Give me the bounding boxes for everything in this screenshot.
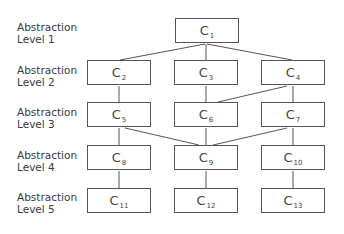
level-label-line1: Abstraction: [17, 191, 77, 203]
level-3-label: Abstraction Level 3: [17, 106, 77, 130]
node-c10: C10: [261, 145, 325, 170]
edge-c4-c6: [218, 86, 287, 102]
node-label: C: [112, 150, 121, 165]
level-label-line2: Level 3: [17, 118, 77, 130]
level-5-label: Abstraction Level 5: [17, 191, 77, 215]
edge-c1-c2: [120, 44, 205, 60]
node-subscript: 2: [122, 74, 126, 82]
node-c11: C11: [87, 188, 151, 213]
level-2-label: Abstraction Level 2: [17, 64, 77, 88]
level-1-label: Abstraction Level 1: [17, 21, 77, 45]
node-label: C: [284, 150, 293, 165]
node-label: C: [284, 193, 293, 208]
edge-c1-c4: [207, 44, 292, 60]
node-c5: C5: [87, 102, 151, 127]
level-label-line1: Abstraction: [17, 106, 77, 118]
node-c2: C2: [87, 60, 151, 85]
node-label: C: [286, 65, 295, 80]
node-subscript: 8: [122, 159, 126, 167]
node-subscript: 9: [209, 159, 213, 167]
node-c8: C8: [87, 145, 151, 170]
node-subscript: 13: [294, 202, 303, 210]
level-label-line1: Abstraction: [17, 64, 77, 76]
level-label-line2: Level 4: [17, 161, 77, 173]
node-label: C: [197, 193, 206, 208]
edge-c7-c9: [213, 128, 287, 145]
node-subscript: 5: [122, 116, 126, 124]
node-subscript: 12: [207, 202, 216, 210]
node-label: C: [110, 193, 119, 208]
level-label-line2: Level 2: [17, 76, 77, 88]
node-label: C: [112, 65, 121, 80]
node-subscript: 1: [210, 32, 214, 40]
node-c12: C12: [174, 188, 238, 213]
node-c7: C7: [261, 102, 325, 127]
node-subscript: 3: [209, 74, 213, 82]
node-c3: C3: [174, 60, 238, 85]
node-label: C: [199, 150, 208, 165]
level-label-line2: Level 5: [17, 203, 77, 215]
level-label-line1: Abstraction: [17, 21, 77, 33]
node-c6: C6: [174, 102, 238, 127]
node-subscript: 11: [120, 202, 129, 210]
edge-c5-c9: [125, 128, 199, 145]
node-c13: C13: [261, 188, 325, 213]
node-label: C: [199, 65, 208, 80]
node-subscript: 4: [296, 74, 300, 82]
node-label: C: [199, 107, 208, 122]
node-subscript: 6: [209, 116, 213, 124]
node-c4: C4: [261, 60, 325, 85]
node-subscript: 7: [296, 116, 300, 124]
level-label-line1: Abstraction: [17, 149, 77, 161]
node-c9: C9: [174, 145, 238, 170]
node-subscript: 10: [294, 159, 303, 167]
node-label: C: [112, 107, 121, 122]
level-4-label: Abstraction Level 4: [17, 149, 77, 173]
node-c1: C1: [175, 18, 239, 43]
node-label: C: [286, 107, 295, 122]
level-label-line2: Level 1: [17, 33, 77, 45]
node-label: C: [200, 23, 209, 38]
